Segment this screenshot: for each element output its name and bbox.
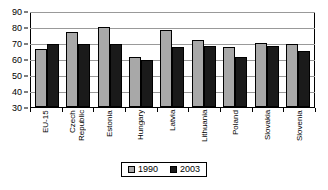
y-tick-mark	[24, 28, 28, 29]
y-tick-label: 60	[12, 56, 22, 65]
bar-2003-czech-republic	[78, 44, 90, 107]
x-label-slot: Slovenia	[283, 110, 315, 156]
y-tick-label: 30	[12, 104, 22, 113]
x-label-slot: CzechRepublic	[62, 110, 94, 156]
x-axis-label: Latvia	[168, 110, 177, 156]
legend-entry-2003: 2003	[170, 164, 200, 174]
x-label-slot: Poland	[220, 110, 252, 156]
bar-2003-latvia	[172, 47, 184, 107]
bar-group	[62, 13, 93, 107]
x-axis-label-line: Poland	[231, 110, 240, 156]
x-axis-label: Slovakia	[263, 110, 272, 156]
x-axis-label-line: Slovakia	[263, 110, 272, 156]
y-tick-mark	[24, 60, 28, 61]
x-axis-label-line: Hungary	[136, 110, 145, 156]
x-axis-labels: EU-15CzechRepublicEstoniaHungaryLatviaLi…	[30, 110, 315, 156]
x-axis-label: EU-15	[41, 110, 50, 156]
bar-chart: 90807060504030 EU-15CzechRepublicEstonia…	[0, 0, 328, 190]
y-tick-mark	[24, 12, 28, 13]
bar-2003-hungary	[141, 60, 153, 107]
x-axis-label: Estonia	[105, 110, 114, 156]
x-axis-label-line: Slovenia	[295, 110, 304, 156]
bar-1990-hungary	[129, 57, 141, 107]
bar-2003-estonia	[110, 44, 122, 107]
x-label-slot: Latvia	[157, 110, 189, 156]
bar-2003-lithuania	[204, 46, 216, 107]
x-axis-label: Lithuania	[200, 110, 209, 156]
x-axis-label-line: Estonia	[105, 110, 114, 156]
y-tick-mark	[24, 76, 28, 77]
x-label-slot: EU-15	[30, 110, 62, 156]
legend-swatch-1990	[128, 166, 135, 173]
bar-2003-poland	[235, 57, 247, 107]
x-label-slot: Lithuania	[188, 110, 220, 156]
bar-1990-estonia	[98, 27, 110, 107]
bar-1990-slovenia	[286, 44, 298, 107]
x-tick-mark	[315, 108, 316, 112]
bar-1990-slovakia	[255, 43, 267, 107]
bar-group	[188, 13, 219, 107]
bar-1990-lithuania	[192, 40, 204, 107]
bar-1990-czech-republic	[66, 32, 78, 107]
y-tick-label: 80	[12, 24, 22, 33]
bar-group	[157, 13, 188, 107]
x-label-slot: Estonia	[93, 110, 125, 156]
legend-entry-1990: 1990	[128, 164, 158, 174]
bar-group	[251, 13, 282, 107]
bar-group	[94, 13, 125, 107]
x-axis-label: CzechRepublic	[68, 110, 86, 156]
y-tick-mark	[24, 108, 28, 109]
x-label-slot: Slovakia	[252, 110, 284, 156]
x-axis-label-line: Lithuania	[200, 110, 209, 156]
bar-group	[220, 13, 251, 107]
y-tick-mark	[24, 92, 28, 93]
legend: 19902003	[0, 162, 328, 177]
legend-swatch-2003	[170, 166, 177, 173]
y-tick-label: 50	[12, 72, 22, 81]
x-axis-label-line: Latvia	[168, 110, 177, 156]
x-axis-label: Hungary	[136, 110, 145, 156]
x-axis-label-line: Republic	[77, 110, 86, 156]
x-label-slot: Hungary	[125, 110, 157, 156]
bar-1990-latvia	[160, 30, 172, 107]
y-tick-label: 70	[12, 40, 22, 49]
bar-2003-slovenia	[298, 51, 310, 107]
bar-group	[283, 13, 314, 107]
y-tick-mark	[24, 44, 28, 45]
bar-group	[31, 13, 62, 107]
bar-group	[125, 13, 156, 107]
bar-2003-slovakia	[267, 46, 279, 107]
legend-label: 2003	[180, 164, 200, 174]
plot-area	[30, 12, 315, 108]
bar-1990-poland	[223, 47, 235, 107]
bar-2003-eu-15	[47, 44, 59, 107]
y-axis: 90807060504030	[0, 12, 28, 108]
legend-label: 1990	[138, 164, 158, 174]
legend-box: 19902003	[121, 162, 207, 177]
y-tick-label: 90	[12, 8, 22, 17]
y-tick-label: 40	[12, 88, 22, 97]
x-axis-label-line: EU-15	[41, 110, 50, 156]
bars-layer	[31, 13, 314, 107]
bar-1990-eu-15	[35, 49, 47, 107]
x-axis-label: Slovenia	[295, 110, 304, 156]
x-axis-label: Poland	[231, 110, 240, 156]
